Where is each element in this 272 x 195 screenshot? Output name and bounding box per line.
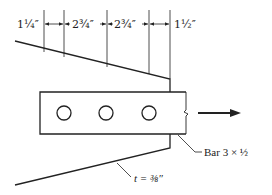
arrowhead — [65, 22, 69, 25]
thickness-leader-line — [117, 163, 131, 177]
arrowhead — [144, 22, 148, 25]
arrowhead — [45, 22, 49, 25]
arrowhead — [102, 22, 106, 25]
thickness-label: t = ⅜″ — [134, 172, 163, 184]
bar-label: Bar 3 × ½ — [204, 146, 248, 158]
gusset-plate-top-edge — [15, 41, 170, 92]
bolt-hole-3 — [142, 106, 156, 120]
dimension-label-4: 1½″ — [174, 18, 196, 31]
arrowhead — [108, 22, 112, 25]
dimension-label-3: 2¾″ — [114, 18, 136, 31]
arrowhead — [150, 22, 154, 25]
arrowhead — [165, 22, 169, 25]
bolt-hole-1 — [57, 106, 71, 120]
gusset-connection-diagram: 1¼″ 2¾″ 2¾″ 1½″ Bar 3 × ½ t = ⅜″ — [0, 0, 272, 195]
load-arrow-icon — [230, 109, 241, 117]
bar-break-line — [184, 92, 188, 134]
dimension-label-1: 1¼″ — [17, 18, 39, 31]
bar-leader-line — [178, 135, 202, 152]
dimension-label-2: 2¾″ — [72, 18, 94, 31]
arrowhead — [59, 22, 63, 25]
bolt-hole-2 — [99, 106, 113, 120]
